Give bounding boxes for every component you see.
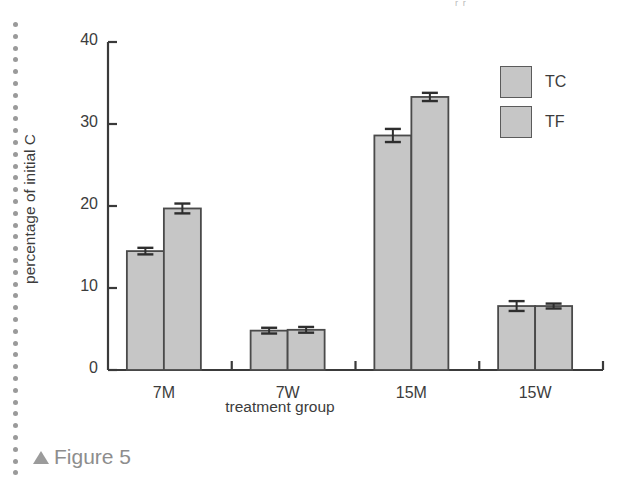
bar-tf-7w	[288, 330, 325, 370]
triangle-up-icon	[33, 451, 49, 464]
margin-dot	[13, 459, 18, 464]
figure-page: ᵣ ᵣ percentage of initial C treatment gr…	[0, 0, 621, 485]
bar-tc-7m	[127, 251, 164, 370]
bar-tf-7m	[164, 208, 201, 370]
legend-entry-tc: TC	[500, 62, 566, 102]
chart-legend: TCTF	[500, 62, 566, 142]
x-tick-label: 7W	[233, 384, 343, 402]
margin-dot	[13, 447, 18, 452]
x-tick-label: 7M	[109, 384, 219, 402]
bar-tf-15w	[535, 306, 572, 370]
x-tick-label: 15W	[480, 384, 590, 402]
legend-label: TC	[545, 73, 566, 91]
x-tick-label: 15M	[356, 384, 466, 402]
margin-dot	[13, 470, 18, 475]
legend-swatch-tf	[500, 106, 532, 138]
bar-tc-15m	[374, 135, 411, 370]
y-tick-label: 10	[54, 277, 98, 295]
y-tick-label: 0	[54, 359, 98, 377]
legend-entry-tf: TF	[500, 102, 566, 142]
bar-tc-15w	[498, 306, 535, 370]
y-tick-label: 30	[54, 113, 98, 131]
y-tick-label: 40	[54, 31, 98, 49]
legend-swatch-tc	[500, 66, 532, 98]
bar-tc-7w	[251, 331, 288, 370]
y-tick-label: 20	[54, 195, 98, 213]
y-axis-title: percentage of initial C	[21, 119, 39, 299]
bar-tf-15m	[411, 97, 448, 370]
figure-caption-text: Figure 5	[54, 445, 131, 469]
legend-label: TF	[545, 113, 565, 131]
figure-caption: Figure 5	[33, 445, 131, 469]
